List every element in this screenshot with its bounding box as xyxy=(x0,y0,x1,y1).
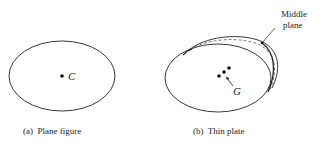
thin-plate: G Middle plane xyxy=(165,9,307,112)
centroid-point-g xyxy=(222,70,226,74)
leader-anchor-dot xyxy=(261,42,264,45)
middle-plane-leader xyxy=(262,28,275,43)
middle-plane-label-line1: Middle xyxy=(281,9,307,19)
thin-plate-front-face xyxy=(165,44,271,112)
centroid-label-g: G xyxy=(233,85,241,97)
caption-a: (a) Plane figure xyxy=(23,126,81,136)
plane-figure: C xyxy=(9,41,115,111)
centroid-point-c xyxy=(60,74,64,78)
caption-b: (b) Thin plate xyxy=(193,126,245,136)
point-dot-1 xyxy=(217,74,221,78)
middle-plane-label-line2: plane xyxy=(283,20,303,30)
point-dot-3 xyxy=(227,66,231,70)
diagram-canvas: C G Middle plane (a) Plane figure (b) Th… xyxy=(0,0,320,146)
centroid-label-c: C xyxy=(68,70,76,82)
